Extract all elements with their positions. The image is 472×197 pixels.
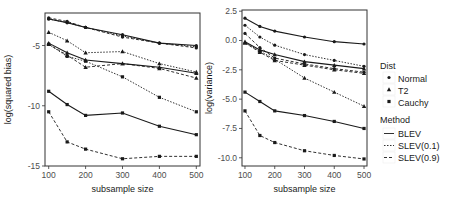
data-point bbox=[362, 42, 365, 45]
data-point bbox=[83, 65, 87, 69]
data-point bbox=[46, 30, 50, 34]
data-point bbox=[258, 35, 261, 38]
panel-frame bbox=[242, 10, 367, 166]
series-normal-blev bbox=[243, 17, 365, 46]
data-point bbox=[47, 110, 50, 113]
data-point bbox=[84, 60, 87, 63]
x-tick-label: 300 bbox=[297, 170, 311, 180]
data-point bbox=[47, 90, 50, 93]
data-point bbox=[121, 35, 124, 38]
x-axis-title: subsample size bbox=[91, 184, 153, 194]
series-line bbox=[245, 43, 364, 106]
x-tick-label: 100 bbox=[42, 170, 56, 180]
x-tick-label: 200 bbox=[79, 170, 93, 180]
data-point bbox=[195, 155, 198, 158]
data-point bbox=[303, 53, 306, 56]
data-point bbox=[273, 44, 276, 47]
legend-label-blev: BLEV bbox=[398, 129, 421, 139]
data-point bbox=[158, 96, 161, 99]
data-point bbox=[333, 59, 336, 62]
data-point bbox=[333, 120, 336, 123]
y-tick-label: -10 bbox=[28, 101, 41, 111]
data-point bbox=[273, 141, 276, 144]
legend: Dist Normal T2 Cauchy Method BLEV SLEV(0… bbox=[380, 61, 440, 163]
x-tick-label: 500 bbox=[357, 170, 371, 180]
data-point bbox=[121, 75, 124, 78]
chart-figure: 100200300400500-5-10-15subsample sizelog… bbox=[0, 0, 472, 197]
legend-label-slev09: SLEV(0.9) bbox=[398, 153, 440, 163]
y-tick-label: -10.0 bbox=[218, 153, 238, 163]
data-point bbox=[84, 148, 87, 151]
data-point bbox=[302, 76, 306, 80]
y-tick-label: 0.0 bbox=[225, 35, 237, 45]
data-point bbox=[243, 32, 246, 35]
data-point bbox=[332, 90, 336, 94]
data-point bbox=[158, 42, 161, 45]
data-point bbox=[47, 43, 50, 46]
y-tick-label: -2.5 bbox=[222, 65, 237, 75]
data-point bbox=[195, 110, 198, 113]
legend-marker-cauchy bbox=[387, 100, 390, 103]
left-panel-squared-bias: 100200300400500-5-10-15subsample sizelog… bbox=[3, 13, 204, 194]
data-point bbox=[303, 35, 306, 38]
data-point bbox=[362, 104, 366, 108]
y-tick-label: -5.0 bbox=[222, 94, 237, 104]
legend-marker-normal bbox=[387, 76, 390, 79]
series-line bbox=[245, 43, 364, 73]
data-point bbox=[362, 157, 365, 160]
data-point bbox=[273, 109, 276, 112]
y-tick-label: -5 bbox=[32, 41, 40, 51]
data-point bbox=[258, 25, 261, 28]
data-point bbox=[258, 134, 261, 137]
data-point bbox=[120, 49, 124, 53]
legend-label-t2: T2 bbox=[398, 86, 409, 96]
data-point bbox=[243, 24, 246, 27]
series-cauchy-slev-0-9 bbox=[47, 110, 198, 160]
series-cauchy-blev bbox=[47, 90, 198, 137]
legend-label-slev01: SLEV(0.1) bbox=[398, 141, 440, 151]
data-point bbox=[195, 133, 198, 136]
legend-method-title: Method bbox=[380, 115, 410, 125]
series-cauchy-blev bbox=[243, 91, 365, 131]
data-point bbox=[121, 111, 124, 114]
right-panel-variance: 1002003004005002.50.0-2.5-5.0-7.5-10.0su… bbox=[204, 6, 371, 194]
data-point bbox=[158, 155, 161, 158]
x-tick-label: 500 bbox=[189, 170, 203, 180]
data-point bbox=[243, 17, 246, 20]
y-axis-title: log(variance) bbox=[204, 62, 214, 114]
x-tick-label: 400 bbox=[152, 170, 166, 180]
series-line bbox=[49, 112, 197, 159]
data-point bbox=[194, 76, 198, 80]
y-tick-label: 2.5 bbox=[225, 6, 237, 16]
y-tick-label: -7.5 bbox=[222, 123, 237, 133]
data-point bbox=[333, 40, 336, 43]
data-point bbox=[84, 26, 87, 29]
data-point bbox=[273, 30, 276, 33]
data-point bbox=[303, 149, 306, 152]
y-tick-label: -15 bbox=[28, 161, 41, 171]
data-point bbox=[66, 103, 69, 106]
x-tick-label: 100 bbox=[238, 170, 252, 180]
data-point bbox=[195, 46, 198, 49]
x-tick-label: 400 bbox=[327, 170, 341, 180]
data-point bbox=[83, 51, 87, 55]
x-tick-label: 300 bbox=[115, 170, 129, 180]
x-tick-label: 200 bbox=[268, 170, 282, 180]
data-point bbox=[66, 140, 69, 143]
data-point bbox=[258, 100, 261, 103]
data-point bbox=[303, 114, 306, 117]
legend-label-normal: Normal bbox=[398, 74, 427, 84]
data-point bbox=[243, 109, 246, 112]
series-t2-blev bbox=[46, 41, 198, 75]
series-line bbox=[49, 43, 197, 73]
legend-label-cauchy: Cauchy bbox=[398, 98, 429, 108]
data-point bbox=[158, 125, 161, 128]
data-point bbox=[362, 127, 365, 130]
y-axis-title: log(squared bias) bbox=[3, 55, 13, 125]
x-axis-title: subsample size bbox=[273, 184, 335, 194]
legend-dist-title: Dist bbox=[380, 61, 396, 71]
series-t2-slev-0-9 bbox=[46, 42, 198, 80]
data-point bbox=[157, 61, 161, 65]
data-point bbox=[66, 20, 69, 23]
data-point bbox=[121, 157, 124, 160]
